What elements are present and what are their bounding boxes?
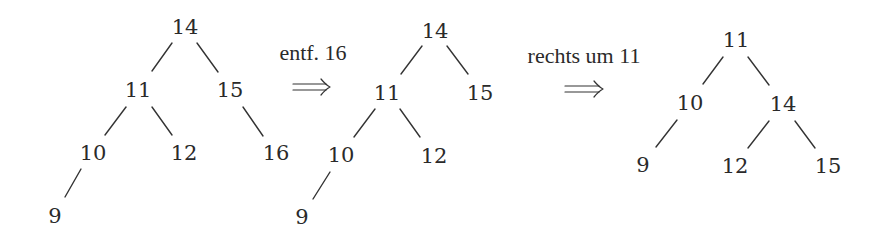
tree-node-9: 9 [295,205,308,229]
edge-11-10 [105,107,126,135]
tree-node-14: 14 [422,19,449,43]
edge-14-11 [401,46,422,74]
edge-14-15 [795,121,815,148]
tree-initial: 1411151012169 [48,15,289,228]
transition-label: entf. 16 [279,40,346,65]
tree-node-15: 15 [467,81,494,105]
tree-node-15: 15 [815,154,842,178]
edge-10-9 [65,169,81,197]
tree-node-10: 10 [328,143,355,167]
edge-14-15 [197,43,218,72]
tree-diagram-canvas: 14111510121691411151012911101491215entf.… [0,0,881,236]
tree-node-12: 12 [171,141,198,165]
tree-node-9: 9 [48,204,61,228]
tree-node-11: 11 [723,28,750,52]
edge-11-10 [703,57,723,84]
edge-14-12 [748,121,769,148]
edge-15-16 [243,107,263,136]
tree-after-rotation: 11101491215 [636,28,841,178]
tree-node-10: 10 [677,91,704,115]
edge-10-9 [313,172,330,199]
tree-node-9: 9 [636,153,649,177]
avl-tree-diagram: 14111510121691411151012911101491215entf.… [0,0,881,236]
tree-node-15: 15 [217,78,244,102]
double-right-arrow-icon [565,81,603,97]
double-right-arrow-icon [293,79,330,95]
edge-11-14 [748,57,769,85]
tree-node-14: 14 [770,92,797,116]
edge-11-10 [354,109,375,137]
edge-10-9 [656,120,677,147]
tree-node-10: 10 [80,141,107,165]
step-delete: entf. 16 [279,40,346,95]
tree-node-14: 14 [172,15,199,39]
tree-node-11: 11 [125,78,152,102]
step-rotate: rechts um 11 [528,43,641,97]
tree-node-12: 12 [421,144,448,168]
edge-14-15 [447,46,468,74]
transition-label: rechts um 11 [528,43,641,68]
tree-node-11: 11 [374,81,401,105]
edge-11-12 [400,109,420,137]
tree-node-12: 12 [722,154,749,178]
edge-14-11 [152,43,172,71]
edge-11-12 [152,107,172,135]
tree-node-16: 16 [263,141,290,165]
